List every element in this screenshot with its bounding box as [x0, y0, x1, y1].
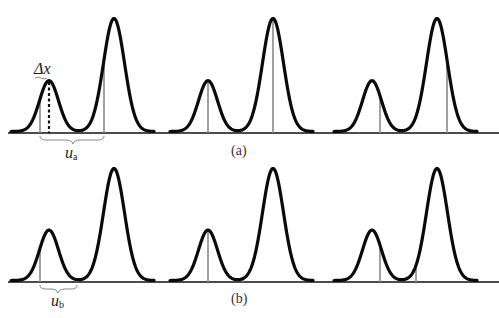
panel-b: ub (b)	[8, 169, 499, 311]
panel-a: Δx ua (a)	[8, 19, 499, 163]
delta-x-tilde	[35, 77, 47, 79]
peak-pair-curve	[170, 19, 313, 132]
peak-pair-curve	[11, 169, 154, 281]
caption-b: (b)	[231, 291, 248, 307]
caption-a: (a)	[231, 143, 247, 159]
diagram-canvas: Δx ua (a) ub (b)	[0, 0, 499, 318]
peak-pair-curve	[334, 169, 477, 281]
delta-x-label: Δx	[33, 60, 51, 77]
curves-b	[11, 169, 477, 281]
curves-a	[11, 19, 477, 132]
offset-label-a: ua	[65, 144, 78, 162]
figure: Δx ua (a) ub (b)	[0, 0, 499, 318]
peak-pair-curve	[334, 19, 477, 132]
offset-label-b: ub	[51, 292, 64, 310]
peak-pair-curve	[11, 19, 154, 132]
offset-brace-a	[40, 136, 104, 144]
peak-pair-curve	[170, 169, 313, 281]
